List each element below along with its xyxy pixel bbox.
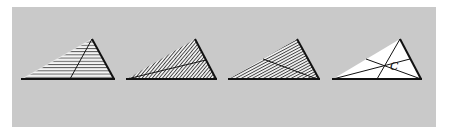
triangle-2 xyxy=(126,39,217,79)
centroid-label: C xyxy=(390,60,399,73)
triangle-3 xyxy=(228,39,320,79)
triangle-4: C xyxy=(332,39,422,79)
triangle-1 xyxy=(21,39,115,79)
triangles-figure: C xyxy=(0,0,449,136)
